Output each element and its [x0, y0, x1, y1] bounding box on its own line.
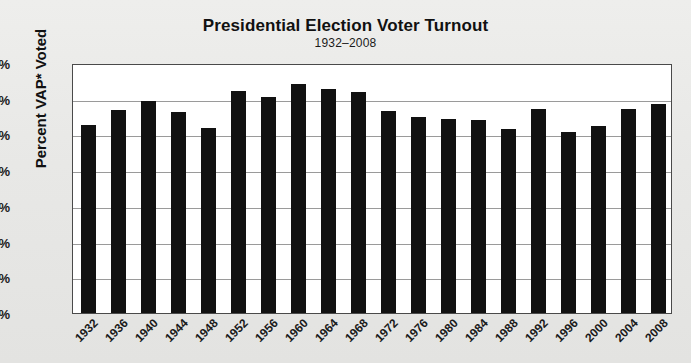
bar — [651, 104, 666, 313]
y-tick-label: 40% — [0, 164, 10, 179]
y-tick-label: 20% — [0, 235, 10, 250]
x-tick-label: 1988 — [488, 316, 521, 349]
x-tick-label: 2008 — [638, 316, 671, 349]
y-tick-label: 0% — [0, 307, 10, 322]
bar — [351, 92, 366, 313]
x-tick-label: 1980 — [428, 316, 461, 349]
chart-title-block: Presidential Election Voter Turnout 1932… — [0, 16, 691, 51]
x-tick-label: 1992 — [518, 316, 551, 349]
x-tick-label: 1952 — [218, 316, 251, 349]
chart-figure: Presidential Election Voter Turnout 1932… — [0, 0, 691, 363]
bar — [441, 119, 456, 313]
x-tick-label: 1936 — [98, 316, 131, 349]
bar — [621, 109, 636, 313]
bar — [171, 112, 186, 313]
bar — [321, 89, 336, 313]
y-tick-label: 70% — [0, 57, 10, 72]
x-tick-label: 1932 — [68, 316, 101, 349]
bar — [501, 129, 516, 313]
chart-subtitle: 1932–2008 — [0, 36, 691, 51]
bar — [561, 132, 576, 313]
bar — [471, 120, 486, 313]
bar — [531, 109, 546, 313]
bar — [141, 101, 156, 313]
x-axis-tick-labels: 1932193619401944194819521956196019641968… — [72, 316, 672, 363]
y-tick-label: 50% — [0, 128, 10, 143]
x-tick-label: 1956 — [248, 316, 281, 349]
x-tick-label: 1940 — [128, 316, 161, 349]
x-tick-label: 1948 — [188, 316, 221, 349]
bar — [201, 128, 216, 313]
plot-area — [72, 64, 672, 314]
bar — [111, 110, 126, 313]
bar — [291, 84, 306, 313]
bar-series — [73, 65, 671, 313]
x-tick-label: 1960 — [278, 316, 311, 349]
bar — [231, 91, 246, 314]
bar — [81, 125, 96, 313]
x-tick-label: 1984 — [458, 316, 491, 349]
x-tick-label: 1944 — [158, 316, 191, 349]
x-tick-label: 1964 — [308, 316, 341, 349]
x-tick-label: 1968 — [338, 316, 371, 349]
y-tick-label: 30% — [0, 199, 10, 214]
page-title: Presidential Election Voter Turnout — [0, 16, 691, 36]
x-tick-label: 1976 — [398, 316, 431, 349]
bar — [261, 97, 276, 313]
y-axis-title: Percent VAP* Voted — [32, 0, 49, 224]
x-tick-label: 1972 — [368, 316, 401, 349]
x-tick-label: 1996 — [548, 316, 581, 349]
bar — [411, 117, 426, 313]
x-tick-label: 2004 — [608, 316, 641, 349]
bar — [381, 111, 396, 313]
y-tick-label: 10% — [0, 271, 10, 286]
y-tick-label: 60% — [0, 92, 10, 107]
bar — [591, 126, 606, 313]
x-tick-label: 2000 — [578, 316, 611, 349]
